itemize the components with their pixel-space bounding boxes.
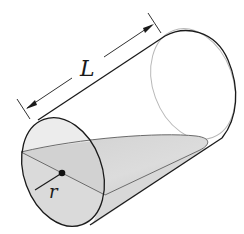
radius-label: r xyxy=(49,183,58,201)
back-rim xyxy=(136,17,244,151)
arrowhead-right-icon xyxy=(143,24,154,33)
dimension-tick-right xyxy=(148,13,161,33)
dimension-tick-left xyxy=(17,99,30,119)
cylinder-top-edge xyxy=(38,36,165,120)
length-label: L xyxy=(80,58,95,80)
cylinder-diagram xyxy=(0,0,244,234)
back-rim-outer-arc xyxy=(165,31,236,138)
center-dot xyxy=(59,170,66,177)
arrowhead-left-icon xyxy=(26,100,37,109)
